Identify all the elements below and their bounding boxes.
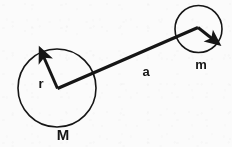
small-body-radius-arrow [198,28,213,40]
label-small-mass: m [195,57,207,72]
label-separation: a [142,64,150,79]
two-body-diagram-svg: M r a m [0,0,232,147]
radius-vector-arrow [44,57,58,89]
label-radius: r [38,76,43,91]
separation-vector-line [58,28,199,89]
label-large-mass: M [57,126,70,143]
figure-container: M r a m [0,0,232,147]
